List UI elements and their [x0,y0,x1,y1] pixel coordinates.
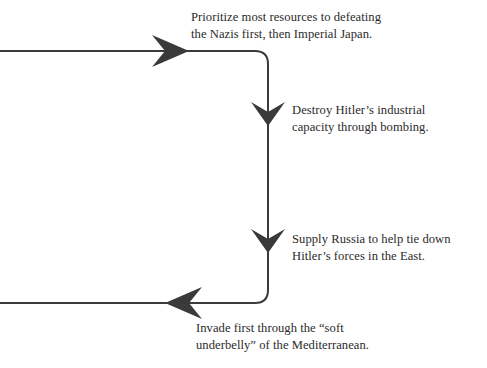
label-supply: Supply Russia to help tie down Hitler’s … [292,231,451,265]
label-invade-line1: Invade first through the “soft [196,320,369,337]
label-supply-line1: Supply Russia to help tie down [292,231,451,248]
label-destroy-line2: capacity through bombing. [292,119,429,136]
label-prioritize-line2: the Nazis first, then Imperial Japan. [191,26,381,43]
diagram-canvas: Prioritize most resources to defeating t… [0,0,487,368]
label-invade-line2: underbelly” of the Mediterranean. [196,337,369,354]
label-destroy-line1: Destroy Hitler’s industrial [292,102,429,119]
label-prioritize-line1: Prioritize most resources to defeating [191,9,381,26]
flow-arrow-graphic [0,0,487,368]
label-invade: Invade first through the “soft underbell… [196,320,369,354]
label-prioritize: Prioritize most resources to defeating t… [191,9,381,43]
label-supply-line2: Hitler’s forces in the East. [292,248,451,265]
connector-path [0,51,268,303]
label-destroy: Destroy Hitler’s industrial capacity thr… [292,102,429,136]
